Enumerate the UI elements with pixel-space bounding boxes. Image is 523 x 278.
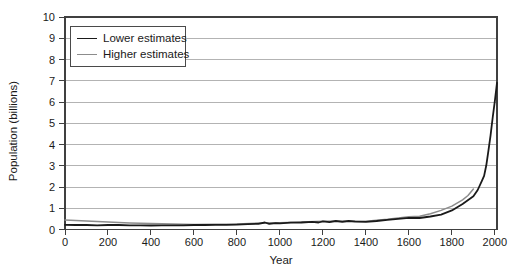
- y-tick-label-2: 2: [0, 181, 55, 193]
- series-line-lower-estimates: [65, 83, 497, 226]
- x-axis-title: Year: [231, 254, 331, 266]
- y-tick-label-1: 1: [0, 202, 55, 214]
- series-line-higher-estimates: [65, 189, 473, 224]
- y-tick-label-0: 0: [0, 224, 55, 236]
- legend: Lower estimates Higher estimates: [70, 26, 186, 67]
- x-tick-label-600: 600: [172, 236, 216, 248]
- y-tick-label-5: 5: [0, 117, 55, 129]
- higher-estimates-line-swatch: [77, 54, 97, 55]
- x-tick-label-1000: 1000: [258, 236, 302, 248]
- y-tick-label-9: 9: [0, 32, 55, 44]
- x-tick-label-1600: 1600: [387, 236, 431, 248]
- legend-item-higher-estimates: Higher estimates: [77, 46, 179, 62]
- x-tick-label-800: 800: [215, 236, 259, 248]
- legend-item-lower-estimates: Lower estimates: [77, 30, 179, 46]
- x-tick-label-1800: 1800: [430, 236, 474, 248]
- y-tick-label-4: 4: [0, 139, 55, 151]
- x-tick-label-1400: 1400: [344, 236, 388, 248]
- x-tick-label-2000: 2000: [473, 236, 517, 248]
- legend-label-higher-estimates: Higher estimates: [103, 47, 189, 61]
- y-tick-label-8: 8: [0, 54, 55, 66]
- x-tick-label-400: 400: [129, 236, 173, 248]
- legend-label-lower-estimates: Lower estimates: [103, 31, 187, 45]
- x-tick-label-1200: 1200: [301, 236, 345, 248]
- lower-estimates-line-swatch: [77, 38, 97, 39]
- y-tick-label-6: 6: [0, 96, 55, 108]
- y-tick-label-10: 10: [0, 11, 55, 23]
- x-tick-label-200: 200: [86, 236, 130, 248]
- y-tick-label-3: 3: [0, 160, 55, 172]
- y-tick-label-7: 7: [0, 75, 55, 87]
- population-chart: Population (billions) Year 012345678910 …: [0, 0, 523, 278]
- x-tick-label-0: 0: [43, 236, 87, 248]
